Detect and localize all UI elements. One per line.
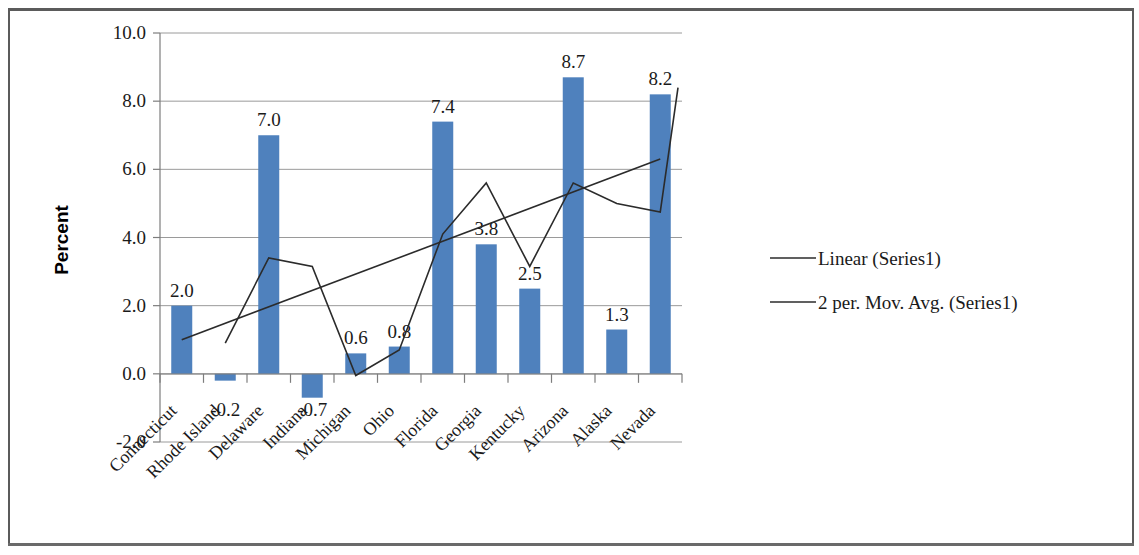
chart-legend: Linear (Series1)2 per. Mov. Avg. (Series… xyxy=(770,248,1017,314)
legend-label: 2 per. Mov. Avg. (Series1) xyxy=(818,292,1017,314)
y-axis-title: Percent xyxy=(51,204,72,274)
bar-data-label: 2.0 xyxy=(170,280,194,301)
chart-page: 10.08.06.04.02.00.0-2.0 Percent 2.0-0.27… xyxy=(0,0,1139,555)
legend-label: Linear (Series1) xyxy=(818,248,941,270)
bar-data-label: 8.7 xyxy=(561,51,585,72)
bar-data-label: 7.4 xyxy=(431,96,455,117)
y-tick-label: 10.0 xyxy=(113,22,146,43)
y-tick-label: 8.0 xyxy=(122,90,146,111)
bar-data-label: 8.2 xyxy=(648,68,672,89)
bar xyxy=(650,94,671,373)
x-category-label: Nevada xyxy=(606,401,659,454)
bar xyxy=(215,374,236,381)
bar xyxy=(476,244,497,374)
bar xyxy=(258,135,279,374)
bar-data-label: 0.6 xyxy=(344,327,368,348)
x-category-label: Arizona xyxy=(517,401,572,456)
bar xyxy=(302,374,323,398)
x-category-label: Ohio xyxy=(358,401,398,441)
bar xyxy=(432,122,453,374)
bar-data-label: 0.8 xyxy=(387,321,411,342)
bar-data-label: 1.3 xyxy=(605,304,629,325)
y-tick-label: 2.0 xyxy=(122,295,146,316)
y-axis-ticks xyxy=(153,33,160,442)
bar-chart: 10.08.06.04.02.00.0-2.0 Percent 2.0-0.27… xyxy=(0,0,1139,555)
y-axis-tick-labels: 10.08.06.04.02.00.0-2.0 xyxy=(113,22,146,452)
bar xyxy=(563,77,584,374)
bar xyxy=(606,330,627,374)
x-axis-category-labels: ConnecticutRhode IslandDelawareIndianaMi… xyxy=(105,401,659,483)
bar xyxy=(519,289,540,374)
y-tick-label: 4.0 xyxy=(122,227,146,248)
bar-data-label: 7.0 xyxy=(257,109,281,130)
y-tick-label: 0.0 xyxy=(122,363,146,384)
x-axis-ticks xyxy=(160,374,682,383)
y-tick-label: 6.0 xyxy=(122,158,146,179)
linear-trendline xyxy=(182,159,661,340)
bar-data-labels: 2.0-0.27.0-0.70.60.87.43.82.58.71.38.2 xyxy=(170,51,672,420)
